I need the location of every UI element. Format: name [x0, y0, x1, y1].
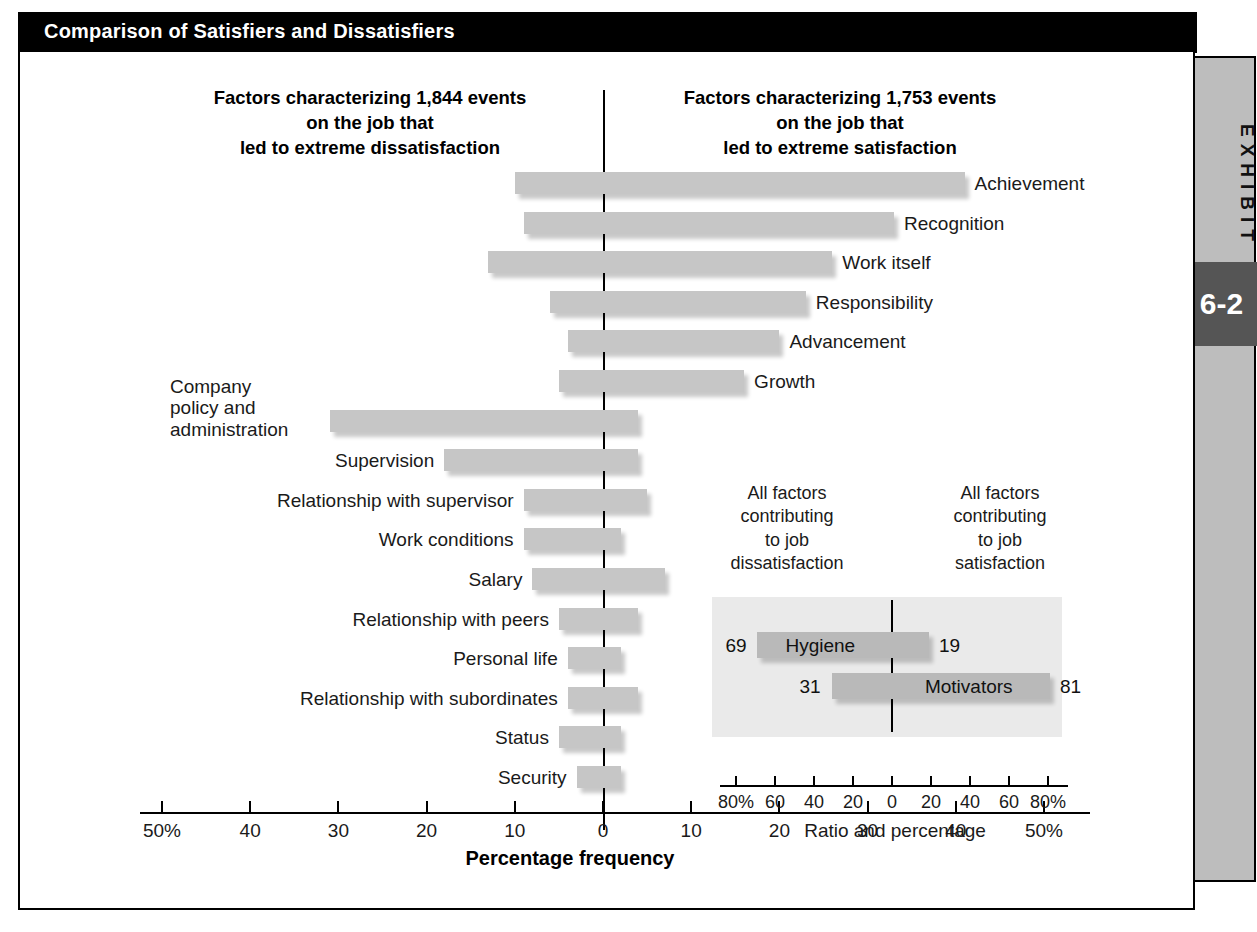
x-tick [955, 801, 957, 812]
inset-x-tick-label: 60 [999, 792, 1019, 813]
heading-satisfaction: Factors characterizing 1,753 eventson th… [630, 86, 1050, 161]
inset-panel-background [712, 597, 1062, 737]
bar-label-company-policy-and-administration: Companypolicy andadministration [170, 376, 320, 442]
bar-advancement [568, 330, 780, 352]
bar-label-relationship-with-supervisor: Relationship with supervisor [20, 490, 514, 512]
bar-label-achievement: Achievement [975, 173, 1085, 195]
bar-relationship-with-subordinates [568, 687, 639, 709]
inset-bar-label-motivators: Motivators [925, 676, 1013, 698]
heading-dissatisfaction: Factors characterizing 1,844 eventson th… [160, 86, 580, 161]
bar-label-work-itself: Work itself [842, 252, 930, 274]
x-tick [690, 801, 692, 812]
bar-recognition [524, 212, 894, 234]
bar-label-recognition: Recognition [904, 213, 1004, 235]
bar-label-personal-life: Personal life [20, 648, 558, 670]
inset-x-tick [852, 776, 854, 785]
x-tick [161, 801, 163, 812]
bar-label-responsibility: Responsibility [816, 292, 933, 314]
bar-label-relationship-with-subordinates: Relationship with subordinates [20, 688, 558, 710]
bar-work-itself [488, 251, 832, 273]
inset-x-tick [813, 776, 815, 785]
inset-value-left-hygiene: 69 [725, 635, 746, 657]
inset-x-tick-label: 80% [718, 792, 754, 813]
inset-zero-axis-line [891, 600, 893, 732]
page-title: Comparison of Satisfiers and Dissatisfie… [44, 20, 455, 43]
inset-bar-label-hygiene: Hygiene [785, 635, 855, 657]
x-tick-label: 20 [416, 820, 437, 842]
inset-x-tick [735, 776, 737, 785]
exhibit-frame: Factors characterizing 1,844 eventson th… [18, 52, 1195, 910]
x-axis-title: Percentage frequency [20, 847, 1120, 870]
bar-responsibility [550, 291, 806, 313]
inset-x-axis [720, 785, 1068, 787]
inset-x-tick-label: 60 [765, 792, 785, 813]
inset-x-tick [774, 776, 776, 785]
bar-personal-life [568, 647, 621, 669]
bar-work-conditions [524, 528, 621, 550]
bar-relationship-with-peers [559, 608, 638, 630]
inset-x-tick [1008, 776, 1010, 785]
bar-label-status: Status [20, 727, 549, 749]
x-tick [426, 801, 428, 812]
inset-value-left-motivators: 31 [800, 676, 821, 698]
x-tick-label: 10 [504, 820, 525, 842]
x-tick [514, 801, 516, 812]
bar-label-security: Security [20, 767, 567, 789]
bar-growth [559, 370, 744, 392]
x-tick-label: 40 [240, 820, 261, 842]
x-tick [337, 801, 339, 812]
x-axis [140, 812, 1090, 814]
inset-x-tick [969, 776, 971, 785]
bar-security [577, 766, 621, 788]
inset-x-tick-label: 0 [887, 792, 897, 813]
bar-salary [532, 568, 664, 590]
inset-x-axis-title: Ratio and percentage [710, 820, 1080, 842]
bar-label-work-conditions: Work conditions [20, 529, 514, 551]
x-tick-label: 50% [143, 820, 181, 842]
bar-status [559, 726, 621, 748]
x-tick-label: 0 [598, 820, 609, 842]
bar-label-salary: Salary [20, 569, 522, 591]
exhibit-title-bar: Comparison of Satisfiers and Dissatisfie… [18, 12, 1197, 53]
x-tick [602, 801, 604, 812]
inset-heading-dissatisfaction: All factorscontributingto jobdissatisfac… [692, 482, 882, 576]
inset-x-tick-label: 40 [960, 792, 980, 813]
bar-label-relationship-with-peers: Relationship with peers [20, 609, 549, 631]
bar-label-advancement: Advancement [789, 331, 905, 353]
bar-achievement [515, 172, 965, 194]
inset-x-tick-label: 20 [921, 792, 941, 813]
x-tick-label: 30 [328, 820, 349, 842]
inset-heading-satisfaction: All factorscontributingto jobsatisfactio… [905, 482, 1095, 576]
bar-relationship-with-supervisor [524, 489, 647, 511]
x-tick-label: 10 [681, 820, 702, 842]
x-tick [249, 801, 251, 812]
inset-x-tick [1047, 776, 1049, 785]
inset-x-tick-label: 80% [1030, 792, 1066, 813]
x-tick [867, 801, 869, 812]
bar-label-growth: Growth [754, 371, 815, 393]
inset-x-tick [930, 776, 932, 785]
bar-supervision [444, 449, 638, 471]
inset-x-tick-label: 40 [804, 792, 824, 813]
exhibit-side-tab: EXHIBIT [1192, 56, 1256, 882]
bar-label-supervision: Supervision [20, 450, 434, 472]
chart-plot-area: Factors characterizing 1,844 eventson th… [20, 52, 1197, 910]
inset-value-right-motivators: 81 [1060, 676, 1081, 698]
inset-x-tick-label: 20 [843, 792, 863, 813]
inset-x-tick [891, 776, 893, 785]
bar-company-policy-and-administration [330, 410, 639, 432]
inset-value-right-hygiene: 19 [939, 635, 960, 657]
